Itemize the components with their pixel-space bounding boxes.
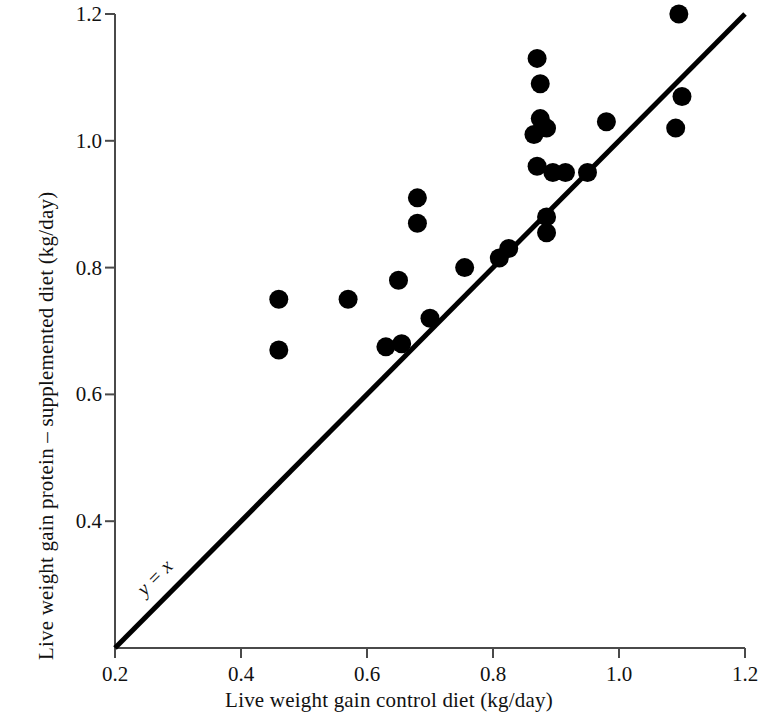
x-tick-label: 0.4 bbox=[228, 662, 254, 687]
data-points-group bbox=[269, 5, 691, 360]
data-point bbox=[531, 74, 550, 93]
data-point bbox=[269, 290, 288, 309]
data-point bbox=[421, 309, 440, 328]
x-tick-label: 0.8 bbox=[480, 662, 506, 687]
y-tick-label: 1.2 bbox=[30, 2, 102, 27]
data-point bbox=[524, 125, 543, 144]
y-tick-label: 0.4 bbox=[30, 509, 102, 534]
data-point bbox=[499, 239, 518, 258]
data-point bbox=[556, 163, 575, 182]
plot-canvas bbox=[0, 0, 778, 721]
scatter-plot-figure: Live weight gain protein – supplemented … bbox=[0, 0, 778, 721]
identity-line bbox=[115, 14, 745, 648]
data-point bbox=[339, 290, 358, 309]
data-point bbox=[269, 341, 288, 360]
data-point bbox=[537, 223, 556, 242]
data-point bbox=[408, 214, 427, 233]
data-point bbox=[666, 119, 685, 138]
x-tick-label: 1.2 bbox=[732, 662, 758, 687]
data-point bbox=[669, 5, 688, 24]
data-point bbox=[597, 112, 616, 131]
data-point bbox=[376, 337, 395, 356]
data-point bbox=[389, 271, 408, 290]
data-point bbox=[578, 163, 597, 182]
x-tick-label: 0.6 bbox=[354, 662, 380, 687]
data-point bbox=[528, 49, 547, 68]
y-tick-label: 0.6 bbox=[30, 382, 102, 407]
data-point bbox=[408, 188, 427, 207]
x-axis-title: Live weight gain control diet (kg/day) bbox=[0, 688, 778, 713]
data-point bbox=[455, 258, 474, 277]
y-tick-label: 1.0 bbox=[30, 128, 102, 153]
y-axis-title-container: Live weight gain protein – supplemented … bbox=[0, 0, 60, 680]
data-point bbox=[673, 87, 692, 106]
y-tick-label: 0.8 bbox=[30, 255, 102, 280]
x-tick-label: 0.2 bbox=[102, 662, 128, 687]
x-tick-label: 1.0 bbox=[606, 662, 632, 687]
data-point bbox=[392, 334, 411, 353]
